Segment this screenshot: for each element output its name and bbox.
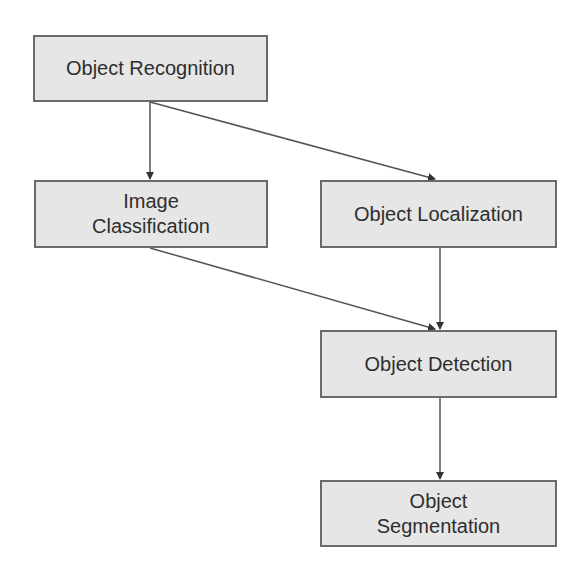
node-object-localization: Object Localization [320,180,557,248]
edge-classification-to-detection [150,248,435,329]
node-object-recognition: Object Recognition [33,35,268,102]
node-image-classification: Image Classification [34,180,268,248]
node-object-segmentation: Object Segmentation [320,480,557,547]
edge-recognition-to-localization [150,102,435,179]
node-object-detection: Object Detection [320,330,557,398]
